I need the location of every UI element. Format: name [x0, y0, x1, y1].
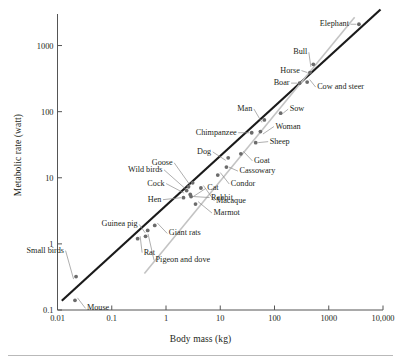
data-point-label: Wild birds	[128, 166, 162, 174]
x-axis-title: Body mass (kg)	[0, 334, 401, 344]
y-tick-label: 10	[30, 173, 54, 182]
data-point-label: Sheep	[270, 138, 290, 146]
data-point-label: Rat	[144, 249, 155, 257]
data-point-label: Hen	[148, 196, 162, 204]
chart-canvas	[0, 0, 401, 362]
data-point-label: Macaque	[216, 197, 246, 205]
data-points	[73, 22, 361, 302]
data-point-label: Cow and steer	[317, 83, 364, 91]
y-tick-label: 1	[30, 239, 54, 248]
data-point-label: Man	[237, 105, 252, 113]
y-tick-label: 100	[30, 107, 54, 116]
leader-lines	[66, 24, 357, 308]
data-point-label: Horse	[280, 66, 300, 74]
data-point-label: Chimpanzee	[196, 129, 237, 137]
y-axis-title: Metabolic rate (watt)	[13, 85, 23, 225]
x-tick-label: 10,000	[371, 314, 394, 323]
axes	[58, 14, 384, 310]
data-point-label: Giant rats	[169, 229, 201, 237]
data-point-label: Pigeon and dove	[156, 256, 211, 264]
data-point-label: Mouse	[87, 304, 109, 312]
x-tick-label: 1	[164, 314, 168, 323]
metabolic-rate-scatter-figure: MouseSmall birdsRatGuinea pigGiant ratsP…	[0, 0, 401, 362]
trend-lines	[62, 9, 381, 300]
data-point-label: Woman	[275, 122, 300, 130]
data-point-label: Sow	[290, 105, 305, 113]
data-point-label: Goose	[152, 159, 173, 167]
data-point-label: Cassowary	[239, 167, 275, 175]
x-tick-label: 1000	[320, 314, 337, 323]
data-point-label: Goat	[254, 157, 270, 165]
x-tick-label: 0.1	[107, 314, 117, 323]
x-tick-label: 10	[216, 314, 224, 323]
data-point-label: Marmot	[214, 209, 240, 217]
data-point-label: Cat	[207, 184, 218, 192]
data-point-label: Cock	[147, 179, 164, 187]
data-point-label: Elephant	[320, 20, 349, 28]
data-point-label: Dog	[197, 148, 211, 156]
y-tick-label: 1000	[30, 41, 54, 50]
data-point-label: Boar	[274, 79, 290, 87]
data-point-label: Bull	[293, 48, 307, 56]
data-point-label: Guinea pig	[102, 220, 138, 228]
footer-divider	[8, 355, 393, 356]
x-tick-label: 0.01	[50, 314, 65, 323]
data-point-label: Condor	[231, 180, 256, 188]
x-tick-label: 100	[268, 314, 281, 323]
y-tick-label: 0.1	[30, 306, 54, 315]
